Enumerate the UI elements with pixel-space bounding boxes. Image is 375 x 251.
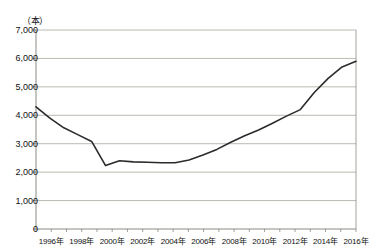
y-axis-tick-label: 7,000 <box>0 25 38 35</box>
x-axis-tick-label: 2010年 <box>252 235 277 246</box>
y-axis-tick-label: 2,000 <box>0 167 38 177</box>
x-axis-tick-label: 2006年 <box>191 235 216 246</box>
plot-area <box>0 0 375 251</box>
line-chart: （本） 01,0002,0003,0004,0005,0006,0007,000… <box>0 0 375 251</box>
x-axis-tick-label: 2004年 <box>161 235 186 246</box>
x-axis-tick-label: 2008年 <box>222 235 247 246</box>
x-axis-tick-label: 2016年 <box>344 235 369 246</box>
x-axis-tick-labels: 1996年1998年2000年2002年2004年2006年2008年2010年… <box>0 233 375 251</box>
y-axis-tick-label: 3,000 <box>0 139 38 149</box>
x-axis-tick-label: 1996年 <box>39 235 64 246</box>
x-axis-tick-label: 2014年 <box>313 235 338 246</box>
y-axis-tick-label: 4,000 <box>0 110 38 120</box>
y-axis-tick-label: 1,000 <box>0 196 38 206</box>
y-axis-tick-label: 6,000 <box>0 53 38 63</box>
y-axis-tick-label: 5,000 <box>0 82 38 92</box>
x-axis-tick-label: 2012年 <box>283 235 308 246</box>
x-axis-tick-label: 2002年 <box>130 235 155 246</box>
y-axis-tick-labels: 01,0002,0003,0004,0005,0006,0007,000 <box>0 0 38 251</box>
x-axis-tick-label: 1998年 <box>69 235 94 246</box>
x-axis-tick-label: 2000年 <box>100 235 125 246</box>
